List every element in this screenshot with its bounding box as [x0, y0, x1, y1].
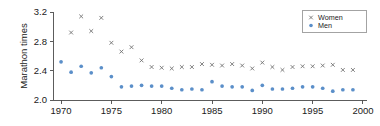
men-data-point	[200, 88, 204, 92]
men-data-point	[150, 84, 154, 88]
x-tick-label: 1975	[101, 105, 122, 116]
men-data-point	[351, 88, 355, 92]
men-data-point	[301, 85, 305, 89]
men-data-point	[271, 87, 275, 91]
dot-marker-icon	[309, 24, 313, 28]
y-tick-label: 2.0	[34, 94, 47, 105]
men-data-point	[110, 75, 114, 79]
women-data-point	[311, 64, 315, 68]
women-data-point	[321, 64, 325, 68]
men-data-point	[281, 87, 285, 91]
x-tick-label: 2000	[352, 105, 373, 116]
men-data-point	[190, 87, 194, 91]
women-data-point	[260, 61, 264, 65]
y-tick-label: 2.8	[34, 36, 47, 47]
men-data-point	[120, 85, 124, 89]
men-data-point	[210, 80, 214, 84]
men-data-point	[140, 83, 144, 87]
men-data-point	[130, 84, 134, 88]
women-data-point	[69, 31, 73, 35]
men-data-point	[79, 64, 83, 68]
women-data-point	[291, 65, 295, 69]
men-data-point	[230, 85, 234, 89]
men-data-point	[240, 85, 244, 89]
men-data-point	[311, 85, 315, 89]
women-data-point	[120, 50, 124, 54]
women-data-point	[130, 45, 134, 49]
men-data-point	[160, 84, 164, 88]
y-axis-title: Marathon times	[18, 23, 29, 89]
women-data-point	[180, 65, 184, 69]
men-data-point	[260, 83, 264, 87]
women-data-point	[89, 29, 93, 33]
legend-label-men: Men	[318, 21, 332, 30]
x-tick-label: 1970	[50, 105, 71, 116]
men-data-point	[291, 86, 295, 90]
men-data-point	[170, 86, 174, 90]
men-data-point	[220, 84, 224, 88]
x-tick-label: 1980	[151, 105, 172, 116]
women-data-point	[200, 62, 204, 66]
x-tick-label: 1985	[201, 105, 222, 116]
chart-canvas: 2.02.42.83.21970197519801985199019952000…	[0, 0, 380, 126]
women-data-point	[351, 68, 355, 72]
women-data-point	[210, 63, 214, 67]
women-data-point	[250, 67, 254, 71]
women-data-point	[150, 65, 154, 69]
men-data-point	[250, 89, 254, 93]
men-data-point	[331, 89, 335, 93]
women-data-point	[109, 41, 113, 45]
marathon-times-scatter-chart: 2.02.42.83.21970197519801985199019952000…	[0, 0, 380, 126]
men-data-point	[321, 86, 325, 90]
y-tick-label: 3.2	[34, 6, 47, 17]
men-data-point	[341, 88, 345, 92]
women-data-point	[341, 68, 345, 72]
women-data-point	[270, 65, 274, 69]
women-data-point	[160, 66, 164, 70]
x-tick-label: 1990	[252, 105, 273, 116]
women-data-point	[79, 15, 83, 19]
chart-legend: WomenMen	[302, 10, 366, 32]
women-data-point	[281, 68, 285, 72]
women-data-point	[99, 16, 103, 20]
men-data-point	[59, 60, 63, 64]
women-data-point	[140, 59, 144, 63]
men-data-point	[99, 66, 103, 70]
men-data-point	[69, 70, 73, 74]
women-data-point	[331, 63, 335, 67]
women-data-point	[301, 64, 305, 68]
women-data-point	[220, 64, 224, 68]
women-data-point	[190, 65, 194, 69]
women-data-point	[240, 64, 244, 68]
women-data-point	[230, 62, 234, 66]
men-data-point	[180, 88, 184, 92]
women-data-point	[170, 67, 174, 71]
men-data-point	[89, 71, 93, 75]
x-tick-label: 1995	[302, 105, 323, 116]
y-tick-label: 2.4	[34, 65, 47, 76]
